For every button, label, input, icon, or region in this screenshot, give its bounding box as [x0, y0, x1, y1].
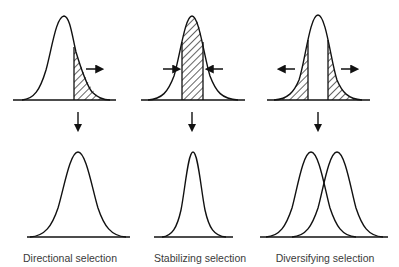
diversifying-before [267, 15, 370, 100]
label-directional-selection: Directional selection [10, 252, 130, 264]
normal-curve [22, 16, 110, 100]
label-diversifying-selection: Diversifying selection [262, 252, 388, 264]
narrow-normal-curve [162, 152, 226, 237]
directional-after [27, 152, 130, 237]
stabilizing-before [141, 16, 245, 100]
hatched-right-tail [328, 42, 357, 100]
normal-curve-shifted [30, 152, 126, 237]
hatched-right-tail [74, 48, 106, 100]
normal-curve [274, 15, 362, 100]
hatched-left-tail [279, 42, 308, 100]
diversifying-after [260, 152, 388, 237]
stabilizing-after [154, 152, 233, 237]
directional-before [13, 16, 116, 100]
label-stabilizing-selection: Stabilizing selection [140, 252, 260, 264]
selection-diagram [0, 0, 399, 267]
